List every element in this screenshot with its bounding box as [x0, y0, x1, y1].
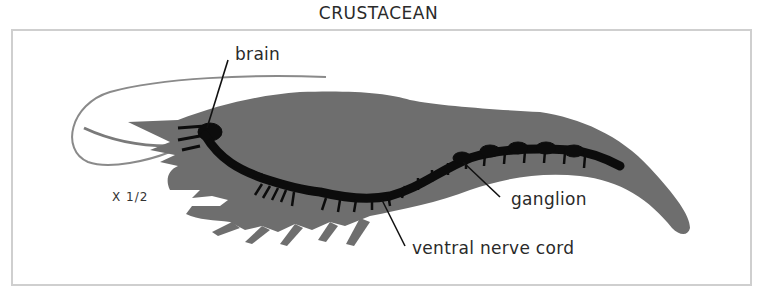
crustacean-illustration	[0, 0, 757, 297]
scale-note: X 1/2	[112, 190, 148, 204]
label-brain: brain	[235, 44, 280, 64]
label-ventral-nerve-cord: ventral nerve cord	[412, 238, 574, 258]
label-ganglion: ganglion	[511, 189, 587, 209]
